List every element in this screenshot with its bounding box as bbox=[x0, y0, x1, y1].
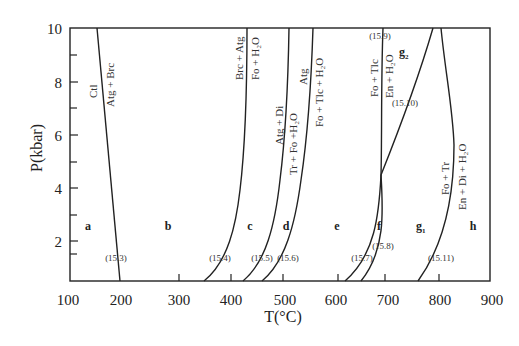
label-tr-fo-h2o: Tr + Fo +H₂O bbox=[287, 113, 299, 175]
y-tick-8: 8 bbox=[55, 75, 63, 91]
field-d: d bbox=[283, 219, 290, 233]
phase-diagram: 2 4 6 8 10 100 200 300 400 500 600 700 8… bbox=[0, 0, 519, 346]
y-axis-title: P(kbar) bbox=[28, 124, 46, 172]
label-atg-brc: Atg + Brc bbox=[104, 63, 116, 107]
y-tick-10: 10 bbox=[47, 21, 62, 37]
y-tick-2: 2 bbox=[55, 234, 63, 250]
field-b: b bbox=[165, 219, 172, 233]
field-e: e bbox=[334, 219, 340, 233]
label-atg: Atg bbox=[297, 68, 309, 85]
field-g2: g2 bbox=[399, 45, 409, 61]
reaction-number-15-4: (15.4) bbox=[209, 253, 231, 263]
x-tick-700: 700 bbox=[377, 292, 400, 308]
reaction-number-15-8: (15.8) bbox=[372, 241, 394, 251]
field-c: c bbox=[247, 219, 253, 233]
field-h: h bbox=[470, 219, 477, 233]
label-fo-tlc-h2o: Fo + Tlc + H₂O bbox=[313, 58, 325, 127]
label-en-h2o: En + H₂O bbox=[383, 54, 395, 98]
label-fo-tlc: Fo + Tlc bbox=[368, 59, 380, 97]
curve-15-11 bbox=[418, 28, 454, 281]
x-tick-100: 100 bbox=[57, 292, 80, 308]
reaction-curves bbox=[97, 28, 454, 281]
label-ctl: Ctl bbox=[87, 85, 99, 98]
field-a: a bbox=[85, 219, 91, 233]
x-tick-300: 300 bbox=[168, 292, 191, 308]
y-axis-ticks bbox=[70, 55, 78, 254]
x-tick-800: 800 bbox=[429, 292, 452, 308]
reaction-number-15-3: (15.3) bbox=[105, 253, 127, 263]
field-g1: g1 bbox=[416, 219, 426, 235]
x-tick-400: 400 bbox=[220, 292, 243, 308]
x-tick-900: 900 bbox=[481, 292, 504, 308]
label-brc-atg: Brc + Atg bbox=[233, 36, 245, 80]
x-tick-200: 200 bbox=[110, 292, 133, 308]
x-axis-title: T(°C) bbox=[264, 308, 302, 326]
label-en-di-h2o: En + Di + H₂O bbox=[456, 144, 468, 210]
x-axis-ticks bbox=[179, 274, 439, 281]
reaction-number-15-9: (15.9) bbox=[369, 31, 391, 41]
plot-frame bbox=[70, 28, 490, 281]
x-tick-600: 600 bbox=[325, 292, 348, 308]
label-atg-di: Atg + Di bbox=[273, 106, 285, 145]
y-tick-6: 6 bbox=[55, 128, 63, 144]
y-tick-4: 4 bbox=[55, 181, 63, 197]
reaction-number-15-7: (15.7) bbox=[351, 253, 373, 263]
reaction-number-15-5: (15.5) bbox=[251, 253, 273, 263]
label-fo-tr: Fo + Tr bbox=[439, 162, 451, 195]
label-fo-h2o: Fo + H₂O bbox=[249, 37, 261, 80]
reaction-number-15-11: (15.11) bbox=[428, 253, 454, 263]
x-tick-500: 500 bbox=[274, 292, 297, 308]
reaction-number-15-10: (15.10) bbox=[392, 98, 418, 108]
reaction-number-15-6: (15.6) bbox=[277, 253, 299, 263]
